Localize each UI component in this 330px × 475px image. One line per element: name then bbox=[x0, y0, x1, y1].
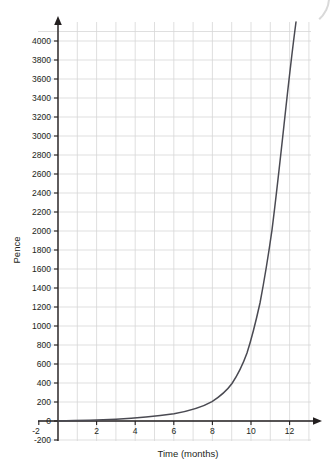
svg-text:3400: 3400 bbox=[32, 93, 51, 103]
svg-text:8: 8 bbox=[210, 426, 215, 436]
svg-text:2200: 2200 bbox=[32, 207, 51, 217]
svg-text:200: 200 bbox=[37, 397, 51, 407]
y-tick-labels: 4000 3800 3600 3400 3200 3000 2800 2600 … bbox=[32, 36, 51, 445]
svg-text:3000: 3000 bbox=[32, 131, 51, 141]
svg-text:2000: 2000 bbox=[32, 226, 51, 236]
svg-text:-2: -2 bbox=[32, 426, 40, 436]
svg-text:2: 2 bbox=[94, 426, 99, 436]
svg-text:4: 4 bbox=[133, 426, 138, 436]
svg-text:600: 600 bbox=[37, 359, 51, 369]
svg-text:400: 400 bbox=[37, 378, 51, 388]
svg-text:3800: 3800 bbox=[32, 55, 51, 65]
svg-text:2600: 2600 bbox=[32, 169, 51, 179]
svg-text:3600: 3600 bbox=[32, 74, 51, 84]
svg-text:1800: 1800 bbox=[32, 245, 51, 255]
svg-text:1000: 1000 bbox=[32, 321, 51, 331]
svg-text:800: 800 bbox=[37, 340, 51, 350]
svg-text:0: 0 bbox=[46, 416, 51, 426]
svg-text:1200: 1200 bbox=[32, 302, 51, 312]
svg-text:2800: 2800 bbox=[32, 150, 51, 160]
x-tick-labels: -2 2 4 6 8 10 12 bbox=[32, 426, 294, 436]
svg-text:1600: 1600 bbox=[32, 264, 51, 274]
svg-text:2400: 2400 bbox=[32, 188, 51, 198]
svg-text:1400: 1400 bbox=[32, 283, 51, 293]
svg-text:12: 12 bbox=[285, 426, 295, 436]
svg-text:4000: 4000 bbox=[32, 36, 51, 46]
y-axis-title: Pence bbox=[11, 237, 22, 264]
exponential-curve bbox=[58, 22, 296, 421]
y-axis bbox=[54, 16, 62, 441]
x-axis-title: Time (months) bbox=[158, 448, 219, 459]
svg-text:10: 10 bbox=[246, 426, 256, 436]
svg-text:-200: -200 bbox=[34, 435, 51, 445]
svg-text:6: 6 bbox=[171, 426, 176, 436]
svg-text:3200: 3200 bbox=[32, 112, 51, 122]
